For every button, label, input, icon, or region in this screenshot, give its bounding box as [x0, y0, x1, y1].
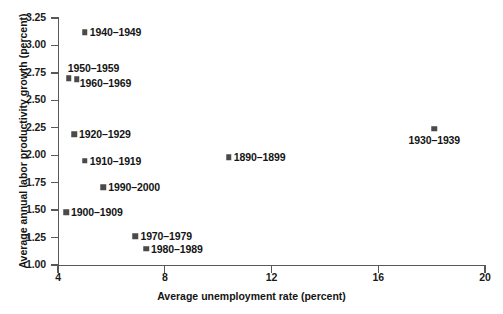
data-point-marker	[432, 126, 438, 132]
data-point-marker	[143, 246, 149, 252]
data-point-label: 1890–1899	[234, 151, 286, 163]
y-tick-mark	[51, 127, 59, 128]
data-point-marker	[66, 76, 72, 82]
data-point-label: 1980–1989	[151, 243, 203, 255]
y-tick-mark	[51, 17, 59, 18]
scatter-plot: 1.001.251.501.752.002.252.502.753.003.25…	[0, 0, 503, 314]
data-point-label: 1920–1929	[79, 128, 131, 140]
data-point-label: 1930–1939	[408, 134, 460, 146]
y-tick-mark	[51, 237, 59, 238]
y-tick-mark	[51, 155, 59, 156]
data-point-label: 1910–1919	[90, 155, 142, 167]
x-tick-label: 16	[358, 271, 398, 283]
data-point-label: 1990–2000	[108, 181, 160, 193]
x-tick-label: 4	[38, 271, 78, 283]
y-tick-mark	[51, 72, 59, 73]
data-point-label: 1970–1979	[140, 230, 192, 242]
x-axis-title: Average unemployment rate (percent)	[0, 290, 503, 302]
data-point-marker	[133, 234, 139, 240]
data-point-label: 1950–1959	[68, 62, 120, 74]
y-tick-mark	[51, 100, 59, 101]
data-point-marker	[74, 77, 80, 83]
y-axis-title: Average annual labor productivity growth…	[17, 11, 29, 271]
x-tick-label: 20	[465, 271, 503, 283]
data-point-label: 1900–1909	[71, 206, 123, 218]
data-point-marker	[101, 184, 107, 190]
data-point-marker	[82, 30, 88, 36]
data-point-marker	[226, 155, 232, 161]
x-tick-label: 12	[252, 271, 292, 283]
data-point-marker	[63, 210, 69, 216]
data-point-label: 1960–1969	[80, 77, 132, 89]
data-point-marker	[71, 132, 77, 138]
x-tick-label: 8	[145, 271, 185, 283]
data-point-marker	[82, 158, 88, 164]
y-tick-mark	[51, 209, 59, 210]
y-tick-mark	[51, 182, 59, 183]
data-point-label: 1940–1949	[90, 26, 142, 38]
y-axis-line	[58, 18, 59, 266]
y-tick-mark	[51, 45, 59, 46]
